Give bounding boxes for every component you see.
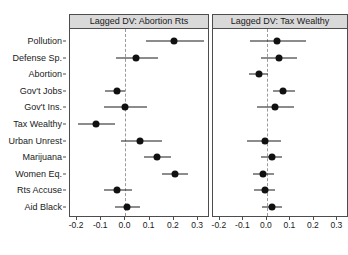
x-axis-tick-label: 0.2: [307, 221, 319, 230]
x-axis-tick-label: -0.2: [69, 221, 84, 230]
x-axis-tick-label: 0.1: [283, 221, 295, 230]
y-axis-label: Pollution: [27, 37, 62, 46]
panel-title: Lagged DV: Abortion Rts: [90, 17, 189, 26]
y-axis-label: Abortion: [28, 70, 62, 79]
estimate-point: [123, 204, 130, 211]
y-axis-label: Urban Unrest: [8, 136, 62, 145]
y-axis-tick: [63, 107, 66, 108]
x-axis-tick-label: -0.1: [235, 221, 250, 230]
y-axis-label: Gov't Ins.: [24, 103, 62, 112]
estimate-point: [275, 54, 282, 61]
estimate-point: [153, 154, 160, 161]
panel-title: Lagged DV: Tax Wealthy: [231, 17, 329, 26]
x-axis-tick-label: 0.3: [191, 221, 203, 230]
x-axis-tick-label: 0.0: [260, 221, 272, 230]
estimate-point: [261, 137, 268, 144]
y-axis-tick: [63, 74, 66, 75]
y-axis-tick: [63, 124, 66, 125]
estimate-point: [280, 87, 287, 94]
y-axis-tick: [63, 207, 66, 208]
plot-area-tax-wealthy: [212, 29, 348, 217]
y-axis-label: Marijuana: [22, 153, 62, 162]
y-axis-tick: [63, 90, 66, 91]
x-axis-tick-label: 0.3: [330, 221, 342, 230]
plot-area-abortion-rts: [69, 29, 209, 217]
estimate-point: [114, 187, 121, 194]
estimate-point: [261, 187, 268, 194]
x-axis-tick-label: 0.1: [143, 221, 155, 230]
y-axis-labels: PollutionDefense Sp.AbortionGov't JobsGo…: [0, 0, 66, 255]
y-axis-label: Rts Accuse: [17, 186, 62, 195]
y-axis-tick: [63, 41, 66, 42]
x-axis-abortion-rts: -0.2-0.10.00.10.20.3: [69, 217, 209, 243]
estimate-point: [122, 104, 129, 111]
estimate-point: [274, 38, 281, 45]
y-axis-label: Women Eq.: [15, 169, 62, 178]
estimate-point: [133, 54, 140, 61]
coefficient-plot: PollutionDefense Sp.AbortionGov't JobsGo…: [0, 0, 348, 255]
y-axis-label: Gov't Jobs: [20, 86, 62, 95]
estimate-point: [170, 38, 177, 45]
estimate-point: [255, 71, 262, 78]
estimate-point: [93, 121, 100, 128]
y-axis-tick: [63, 140, 66, 141]
x-axis-tick-label: 0.2: [167, 221, 179, 230]
panel-strip-tax-wealthy: Lagged DV: Tax Wealthy: [212, 14, 348, 29]
x-axis-tax-wealthy: -0.2-0.10.00.10.20.3: [212, 217, 348, 243]
estimate-point: [114, 87, 121, 94]
x-axis-tick-label: -0.1: [93, 221, 108, 230]
estimate-point: [260, 170, 267, 177]
estimate-point: [172, 170, 179, 177]
estimate-point: [137, 137, 144, 144]
estimate-point: [272, 104, 279, 111]
y-axis-label: Aid Black: [24, 203, 62, 212]
estimate-point: [268, 154, 275, 161]
y-axis-label: Tax Wealthy: [13, 120, 62, 129]
x-axis-tick-label: 0.0: [119, 221, 131, 230]
panel-strip-abortion-rts: Lagged DV: Abortion Rts: [69, 14, 209, 29]
y-axis-label: Defense Sp.: [12, 53, 62, 62]
x-axis-tick-label: -0.2: [212, 221, 227, 230]
panel-abortion-rts: Lagged DV: Abortion Rts: [69, 14, 209, 217]
y-axis-tick: [63, 190, 66, 191]
y-axis-tick: [63, 173, 66, 174]
estimate-point: [268, 204, 275, 211]
y-axis-tick: [63, 157, 66, 158]
panel-tax-wealthy: Lagged DV: Tax Wealthy: [212, 14, 348, 217]
y-axis-tick: [63, 57, 66, 58]
